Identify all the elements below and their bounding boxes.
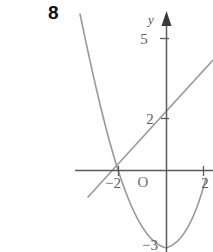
y-axis-arrowhead: [162, 11, 172, 26]
x-tick-label-2: 2: [201, 175, 209, 191]
parabola-curve: [80, 14, 206, 248]
y-axis-label: y: [146, 12, 154, 27]
graph-canvas: y 5 2 O −2 2 −3: [0, 0, 213, 252]
y-tick-label-minus-3: −3: [142, 237, 158, 252]
figure-container: 8 y 5 2 O −2 2 −3: [0, 0, 213, 252]
y-tick-label-5: 5: [140, 31, 148, 47]
x-tick-label-minus-2: −2: [105, 175, 121, 191]
y-tick-label-2: 2: [146, 111, 154, 127]
origin-label: O: [138, 174, 149, 190]
